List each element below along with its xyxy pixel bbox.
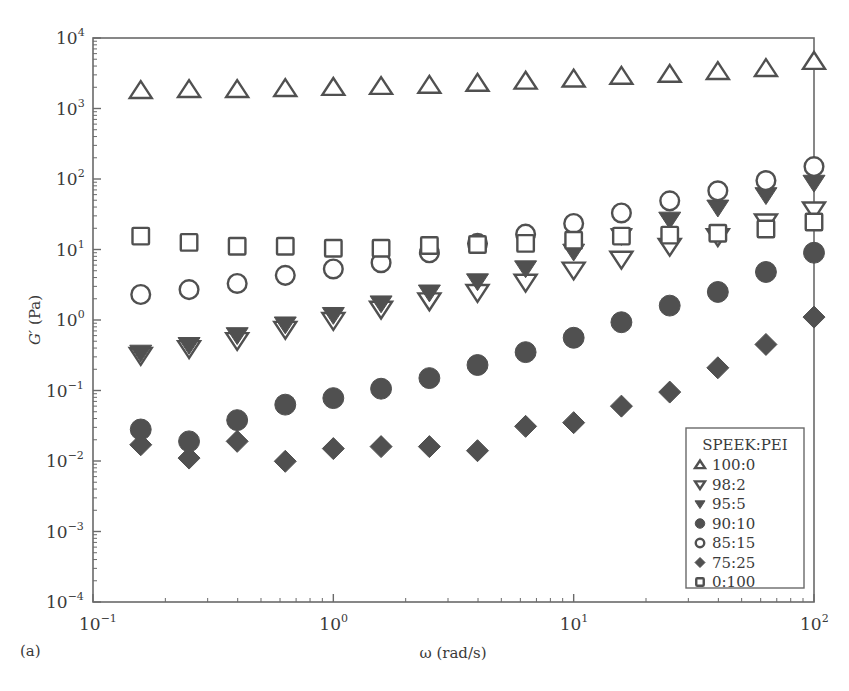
data-point: [610, 395, 632, 417]
y-axis-label: G′ (Pa): [26, 295, 44, 345]
data-point: [132, 228, 149, 245]
x-tick-label: 100: [319, 612, 348, 634]
data-point: [370, 77, 392, 94]
data-point: [661, 227, 678, 244]
x-tick-label: 101: [560, 612, 589, 634]
legend-entry-label: 100:0: [712, 456, 755, 474]
data-point: [178, 447, 200, 469]
series-95-5: [130, 175, 825, 362]
y-tick-label: 101: [56, 238, 85, 260]
data-point: [563, 327, 584, 348]
data-point: [325, 240, 342, 256]
data-point: [803, 175, 825, 192]
data-point: [467, 74, 489, 91]
data-point: [806, 214, 823, 231]
data-point: [323, 388, 344, 409]
data-point: [611, 312, 632, 333]
data-point: [370, 436, 392, 458]
legend-entry-label: 98:2: [712, 476, 746, 494]
data-point: [707, 62, 729, 79]
data-point: [660, 191, 679, 210]
data-point: [180, 280, 199, 299]
data-point: [563, 412, 585, 434]
data-point: [275, 394, 296, 415]
data-point: [226, 430, 248, 452]
x-tick-label: 10−1: [79, 612, 117, 634]
series-0-100: [132, 214, 822, 257]
legend-entry-label: 90:10: [712, 515, 755, 533]
data-point: [612, 204, 631, 223]
data-point: [755, 333, 777, 355]
data-point: [610, 67, 632, 84]
data-point: [227, 410, 248, 431]
data-point: [322, 78, 344, 95]
legend-entry-label: 0:100: [712, 573, 755, 591]
series-100-0: [130, 52, 825, 98]
legend-entry-label: 75:25: [712, 554, 755, 572]
data-point: [755, 262, 776, 283]
data-point: [707, 357, 729, 379]
data-point: [324, 260, 343, 279]
data-point: [515, 72, 537, 89]
data-point: [710, 225, 727, 242]
data-point: [373, 240, 390, 256]
data-point: [803, 306, 825, 328]
legend-marker-icon: [695, 519, 705, 529]
data-point: [805, 157, 824, 176]
data-point: [515, 415, 537, 437]
data-point: [707, 281, 728, 302]
x-axis-ticks: 10−1100101102: [79, 594, 829, 634]
data-point: [276, 266, 295, 285]
data-point: [226, 80, 248, 97]
data-point: [708, 181, 727, 200]
legend-marker-icon: [696, 578, 704, 586]
data-point: [419, 368, 440, 389]
data-point: [804, 242, 825, 263]
data-point: [659, 381, 681, 403]
x-tick-label: 102: [800, 612, 829, 634]
data-point: [564, 214, 583, 233]
data-point: [565, 232, 582, 249]
data-point: [515, 342, 536, 363]
data-point: [467, 440, 489, 462]
data-point: [418, 436, 440, 458]
data-point: [659, 65, 681, 82]
y-tick-label: 10−1: [46, 379, 84, 401]
data-point: [758, 221, 775, 238]
data-point: [659, 295, 680, 316]
data-point: [755, 59, 777, 76]
data-point: [371, 378, 392, 399]
panel-label: (a): [20, 642, 41, 660]
data-point: [274, 450, 296, 472]
data-point: [707, 200, 729, 217]
data-points: [130, 52, 825, 472]
data-point: [418, 76, 440, 93]
data-point: [610, 252, 632, 269]
data-point: [274, 79, 296, 96]
y-tick-label: 10−4: [46, 590, 84, 612]
data-point: [131, 285, 150, 304]
y-tick-label: 100: [56, 308, 85, 330]
y-tick-label: 10−3: [46, 520, 84, 542]
data-point: [178, 80, 200, 97]
data-point: [277, 238, 294, 255]
x-axis-label: ω (rad/s): [419, 644, 486, 662]
data-point: [563, 70, 585, 87]
legend-marker-icon: [696, 539, 705, 548]
data-point: [517, 235, 534, 252]
data-point: [563, 263, 585, 280]
y-tick-label: 102: [56, 167, 85, 189]
y-tick-label: 103: [56, 97, 85, 119]
data-point: [181, 234, 198, 251]
data-point: [467, 355, 488, 376]
data-point: [469, 236, 486, 253]
data-point: [228, 274, 247, 293]
legend: SPEEK:PEI100:098:295:590:1085:1575:250:1…: [686, 428, 804, 591]
legend-entry-label: 95:5: [712, 495, 746, 513]
data-point: [130, 81, 152, 98]
data-point: [757, 171, 776, 190]
data-point: [229, 238, 246, 255]
data-point: [322, 438, 344, 460]
data-point: [803, 52, 825, 69]
y-tick-label: 104: [56, 26, 85, 48]
